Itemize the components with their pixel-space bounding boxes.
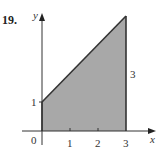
x-tick-label-3: 3 bbox=[123, 137, 129, 149]
y-tick-label-1: 1 bbox=[31, 96, 37, 108]
side-length-label: 3 bbox=[130, 68, 136, 80]
x-tick-label-2: 2 bbox=[95, 137, 101, 149]
shaded-region bbox=[42, 16, 126, 131]
x-axis-label: x bbox=[149, 133, 155, 145]
diagram: 19. y x 0 1 2 3 1 3 bbox=[0, 0, 168, 151]
problem-number: 19. bbox=[2, 13, 17, 27]
y-axis-arrow-icon bbox=[39, 13, 45, 21]
x-tick-label-1: 1 bbox=[67, 137, 73, 149]
y-axis-label: y bbox=[32, 9, 38, 21]
origin-label: 0 bbox=[31, 134, 37, 146]
